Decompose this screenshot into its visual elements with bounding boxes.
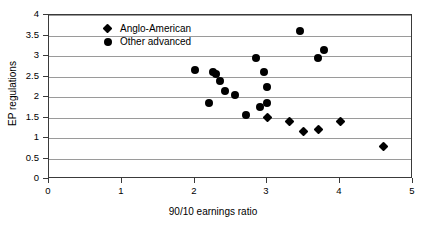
gridline bbox=[49, 77, 411, 78]
x-axis-tick-label: 0 bbox=[38, 186, 58, 196]
data-point-circle bbox=[263, 99, 271, 107]
scatter-chart: 00.511.522.533.54 EP regulations Anglo-A… bbox=[0, 0, 426, 238]
gridline bbox=[49, 118, 411, 119]
x-axis-tick bbox=[412, 178, 413, 183]
data-point-diamond bbox=[262, 113, 272, 123]
x-axis-title: 90/10 earnings ratio bbox=[0, 206, 426, 217]
data-point-circle bbox=[242, 111, 250, 119]
y-axis-tick-label: 4 bbox=[0, 9, 39, 19]
diamond-marker-icon bbox=[104, 25, 116, 32]
legend-label-anglo-american: Anglo-American bbox=[120, 22, 191, 35]
data-point-circle bbox=[221, 87, 229, 95]
x-axis-tick-label: 5 bbox=[402, 186, 422, 196]
data-point-circle bbox=[191, 66, 199, 74]
x-axis-tick-label: 4 bbox=[329, 186, 349, 196]
gridline bbox=[49, 56, 411, 57]
data-point-circle bbox=[205, 99, 213, 107]
legend-item-anglo-american: Anglo-American bbox=[104, 22, 191, 35]
legend: Anglo-American Other advanced bbox=[104, 22, 191, 48]
data-point-circle bbox=[216, 77, 224, 85]
x-axis-tick bbox=[266, 178, 267, 183]
data-point-circle bbox=[314, 54, 322, 62]
y-axis-title: EP regulations bbox=[7, 34, 18, 154]
x-axis-tick bbox=[121, 178, 122, 183]
y-axis-tick-label: 0.5 bbox=[0, 153, 39, 163]
y-axis-tick-label: 0 bbox=[0, 173, 39, 183]
data-point-circle bbox=[296, 27, 304, 35]
data-point-diamond bbox=[299, 127, 309, 137]
gridline bbox=[49, 97, 411, 98]
data-point-diamond bbox=[379, 141, 389, 151]
data-point-circle bbox=[231, 91, 239, 99]
gridline bbox=[49, 159, 411, 160]
circle-marker-icon bbox=[104, 38, 116, 46]
data-point-diamond bbox=[313, 125, 323, 135]
legend-item-other-advanced: Other advanced bbox=[104, 35, 191, 48]
x-axis-tick bbox=[339, 178, 340, 183]
x-axis-tick bbox=[48, 178, 49, 183]
data-point-circle bbox=[252, 54, 260, 62]
x-axis-tick-label: 3 bbox=[256, 186, 276, 196]
gridline bbox=[49, 15, 411, 16]
x-axis-tick-label: 2 bbox=[184, 186, 204, 196]
data-point-circle bbox=[263, 83, 271, 91]
gridline bbox=[49, 138, 411, 139]
plot-area: Anglo-American Other advanced bbox=[48, 14, 412, 178]
legend-label-other-advanced: Other advanced bbox=[120, 35, 191, 48]
x-axis-tick bbox=[194, 178, 195, 183]
data-point-circle bbox=[260, 68, 268, 76]
data-point-circle bbox=[320, 46, 328, 54]
x-axis-tick-label: 1 bbox=[111, 186, 131, 196]
